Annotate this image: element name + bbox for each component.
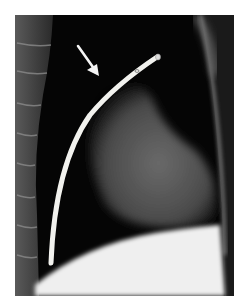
spine	[15, 15, 53, 296]
arrow-icon	[78, 46, 99, 76]
xray-canvas	[15, 15, 234, 296]
catheter-tip	[156, 54, 161, 60]
heart-silhouette	[89, 85, 216, 227]
xray-illustration	[15, 15, 234, 296]
